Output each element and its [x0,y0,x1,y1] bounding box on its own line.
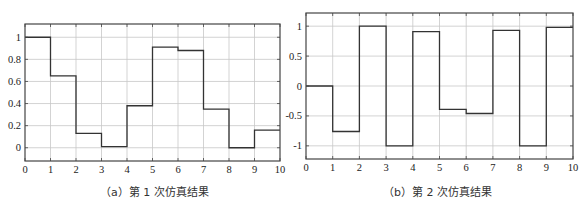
y-tick-label: 0.4 [8,98,22,109]
x-tick-label: 8 [517,162,522,173]
x-tick-label: 10 [568,162,579,173]
y-tick-label: 0.8 [8,54,21,65]
x-tick-label: 0 [303,162,308,173]
y-tick-label: 0.2 [8,120,21,131]
caption-a: （a）第 1 次仿真结果 [100,183,209,199]
x-tick-label: 3 [99,164,104,175]
caption-b: （b）第 2 次仿真结果 [383,183,492,199]
x-tick-label: 7 [201,164,206,175]
y-tick-label: 1 [16,32,21,43]
x-tick-label: 2 [73,164,78,175]
y-tick-label: -1 [293,140,302,151]
y-tick-label: 0.5 [289,51,302,62]
x-tick-label: 4 [410,162,416,173]
y-tick-label: 0 [297,81,302,92]
x-tick-label: 9 [544,162,549,173]
x-tick-label: 0 [22,164,27,175]
chart-a-simulation-1: 01234567891000.20.40.60.81 [8,24,285,175]
x-tick-label: 10 [275,164,286,175]
x-tick-label: 6 [175,164,180,175]
y-tick-label: -0.5 [285,110,302,121]
x-tick-label: 2 [357,162,362,173]
x-tick-label: 8 [226,164,231,175]
x-tick-label: 5 [150,164,155,175]
x-tick-label: 6 [464,162,469,173]
x-tick-label: 7 [490,162,495,173]
x-tick-label: 3 [383,162,388,173]
x-tick-label: 5 [437,162,442,173]
y-tick-label: 1 [297,21,302,32]
x-tick-label: 1 [330,162,335,173]
x-tick-label: 4 [124,164,130,175]
chart-b-simulation-2: 012345678910-1-0.500.51 [285,13,578,173]
y-tick-label: 0.6 [8,76,21,87]
figure-canvas: 01234567891000.20.40.60.81 012345678910-… [0,0,587,204]
y-tick-label: 0 [16,142,21,153]
x-tick-label: 1 [48,164,53,175]
x-tick-label: 9 [252,164,257,175]
